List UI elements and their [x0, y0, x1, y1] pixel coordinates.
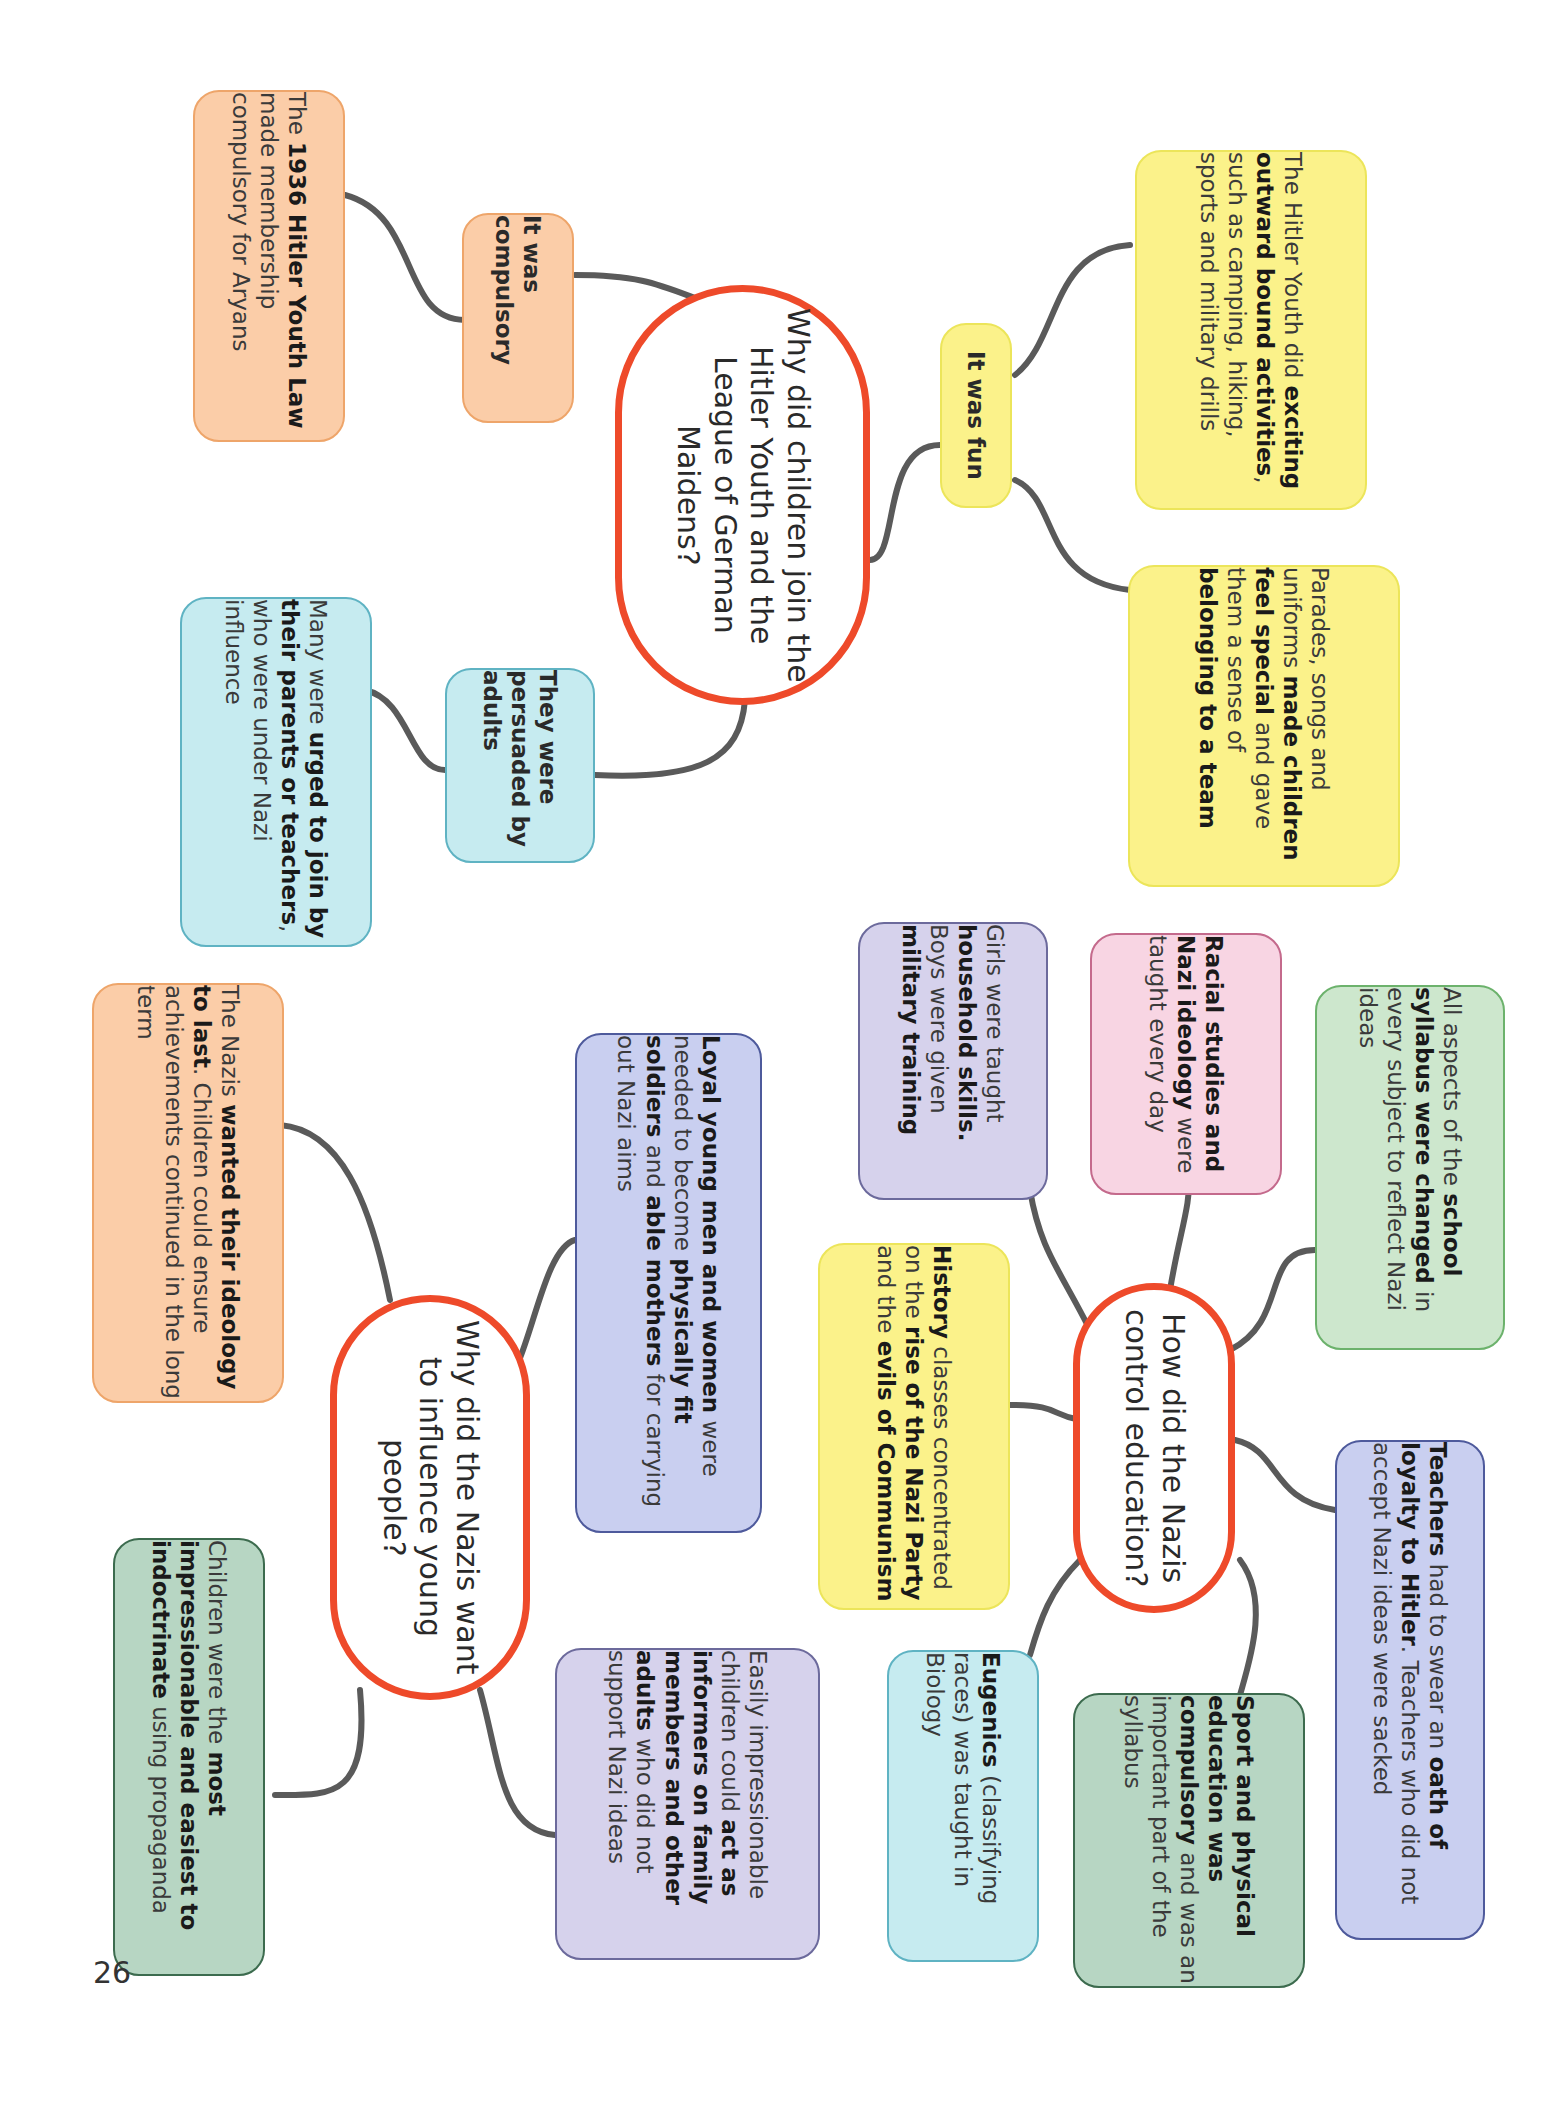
node-urged-to-join: Many were urged to join by their parents…: [180, 597, 372, 947]
bold-text: able mothers: [642, 1195, 668, 1366]
node-racial-studies: Racial studies and Nazi ideology were ta…: [1090, 933, 1282, 1195]
plain-text: made membership compulsory for Aryans: [228, 92, 282, 352]
bold-text: military training: [898, 924, 924, 1135]
bold-text: Teachers: [1425, 1442, 1451, 1556]
node-ideology-to-last: The Nazis wanted their ideology to last.…: [92, 983, 284, 1403]
node-school-syllabus: All aspects of the school syllabus were …: [1315, 985, 1505, 1350]
plain-text: had to swear an: [1425, 1556, 1451, 1756]
node-teachers-oath: Teachers had to swear an oath of loyalty…: [1335, 1440, 1485, 1940]
bold-text: belonging to a team: [1195, 567, 1221, 829]
plain-text: Many were: [305, 599, 331, 732]
node-it-was-compulsory: It was compulsory: [462, 213, 574, 423]
node-most-impressionable: Children were the most impressionable an…: [113, 1538, 265, 1976]
plain-text: Children were the: [204, 1540, 230, 1751]
bold-text: Loyal young men and women: [698, 1035, 724, 1413]
center-why-join: Why did children join the Hitler Youth a…: [615, 285, 870, 705]
node-household-military: Girls were taught household skills. Boys…: [858, 922, 1048, 1200]
plain-text: All aspects of the: [1439, 987, 1465, 1193]
node-belonging: Parades, songs and uniforms made childre…: [1128, 565, 1400, 887]
center-influence-young: Why did the Nazis want to influence youn…: [330, 1295, 530, 1700]
center-why-join-text: Why did children join the Hitler Youth a…: [669, 292, 815, 698]
page-number: 26: [93, 1955, 131, 1990]
plain-text: The Hitler Youth did: [1280, 152, 1306, 386]
center-control-education: How did the Nazis control education?: [1073, 1283, 1235, 1613]
plain-text: The Nazis: [217, 985, 243, 1104]
plain-text: using propaganda: [148, 1699, 174, 1914]
plain-text: and the: [873, 1245, 899, 1341]
bold-text: 1936 Hitler Youth Law: [284, 142, 310, 429]
node-eugenics: Eugenics (classifying races) was taught …: [887, 1650, 1039, 1962]
plain-text: Girls were taught: [982, 924, 1008, 1123]
node-sport-pe: Sport and physical education was compuls…: [1073, 1693, 1305, 1988]
bold-text: History: [929, 1245, 955, 1339]
bold-text: evils of Communism: [873, 1341, 899, 1602]
plain-text: Boys were given: [926, 924, 952, 1113]
node-1936-law-text: The 1936 Hitler Youth Law made membershi…: [227, 92, 311, 440]
plain-text: The: [284, 92, 310, 142]
node-outward-bound: The Hitler Youth did exciting outward bo…: [1135, 150, 1367, 510]
node-it-was-fun: It was fun: [940, 323, 1012, 508]
node-history-classes: History classes concentrated on the rise…: [818, 1243, 1010, 1610]
node-1936-law: The 1936 Hitler Youth Law made membershi…: [193, 90, 345, 442]
bold-text: Eugenics: [978, 1652, 1004, 1768]
bold-text: household skills.: [954, 924, 980, 1141]
plain-text: and: [642, 1137, 668, 1195]
bold-text: rise of the Nazi Party: [901, 1326, 927, 1600]
node-loyal-young: Loyal young men and women were needed to…: [575, 1033, 762, 1533]
node-informers: Easily impressionable children could act…: [555, 1648, 820, 1960]
node-persuaded-by-adults: They were persuaded by adults: [445, 668, 595, 863]
